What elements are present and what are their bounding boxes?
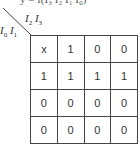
kmap-row: x 1 0 0	[31, 36, 138, 63]
kmap-cell: 0	[111, 90, 138, 117]
kmap-cell: 0	[111, 117, 138, 144]
kmap-cell: 0	[57, 117, 84, 144]
kmap-cell: 0	[111, 36, 138, 63]
kmap-cell: 1	[57, 36, 84, 63]
kmap-cell: 1	[57, 63, 84, 90]
column-variables-label: I2 I3	[25, 12, 42, 27]
kmap-cell: 0	[57, 90, 84, 117]
kmap-cell: 0	[31, 90, 58, 117]
kmap-row: 0 0 0 0	[31, 90, 138, 117]
kmap-row: 1 1 1 1	[31, 63, 138, 90]
var-i2-sub: 2	[29, 19, 33, 27]
kmap-cell: 1	[31, 63, 58, 90]
kmap-cell: 0	[84, 117, 111, 144]
var-i3-sub: 3	[39, 19, 43, 27]
kmap-cell: 1	[111, 63, 138, 90]
var-i0-sub: 0	[4, 31, 8, 39]
kmap-cell: 0	[31, 117, 58, 144]
row-variables-label: I0 I1	[0, 24, 17, 39]
karnaugh-map: x 1 0 0 1 1 1 1 0 0 0 0 0 0 0 0	[30, 35, 138, 144]
kmap-cell: 0	[84, 36, 111, 63]
kmap-cell: 1	[84, 63, 111, 90]
kmap-cell: 0	[84, 90, 111, 117]
kmap-row: 0 0 0 0	[31, 117, 138, 144]
kmap-cell: x	[31, 36, 58, 63]
var-i1-sub: 1	[14, 31, 18, 39]
